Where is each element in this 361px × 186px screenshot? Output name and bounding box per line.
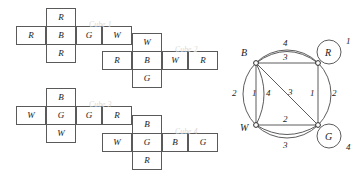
vertex-label-r: R (325, 47, 331, 58)
cube-1-bottom-face: R (46, 44, 76, 63)
cube-1-row-face-2: B (46, 26, 76, 45)
cube-4-label: Cube 4 (175, 127, 198, 136)
edge-label-w-g-outer: 3 (283, 140, 288, 150)
cube-1-top-face: R (46, 8, 76, 27)
cube-3-bottom-face: W (46, 124, 76, 143)
vertex-dot-b (254, 61, 259, 66)
multigraph-svg (228, 8, 361, 184)
vertex-label-g: G (325, 131, 332, 142)
edge-label-b-w-outer: 2 (232, 88, 237, 98)
edge-label-r-g-straight: 1 (310, 88, 315, 98)
cube-3-row-face-2: G (46, 106, 76, 125)
cube-net-4: B W G B G R Cube 4 (102, 115, 216, 171)
vertex-label-b: B (241, 47, 247, 58)
vertex-dot-w (254, 123, 259, 128)
edge-label-b-w-inner: 4 (266, 88, 271, 98)
edge-label-b-w-straight: 1 (252, 88, 257, 98)
cube-3-label: Cube 3 (89, 100, 112, 109)
cube-4-top-face: B (132, 115, 162, 134)
cube-3-row-face-1: W (16, 106, 46, 125)
cube-4-bottom-face: R (132, 151, 162, 170)
vertex-label-w: W (240, 122, 248, 133)
cube-2-row-face-2: B (132, 51, 162, 70)
edge-label-w-g-straight: 2 (283, 114, 288, 124)
edge-w-g-outer-arc (256, 125, 318, 135)
cube-3-top-face: B (46, 88, 76, 107)
cube-2-row-face-1: R (102, 51, 132, 70)
edge-label-b-g-diagonal: 3 (288, 87, 293, 97)
cube-1-label: Cube 1 (89, 20, 112, 29)
edge-label-r-self-loop: 1 (346, 36, 351, 46)
edge-label-b-r-outer: 4 (283, 38, 288, 48)
edge-label-g-self-loop: 4 (346, 142, 351, 152)
cube-2-bottom-face: G (132, 69, 162, 88)
cube-1-row-face-1: R (16, 26, 46, 45)
vertex-dot-g (316, 123, 321, 128)
vertex-dot-r (316, 61, 321, 66)
multigraph-panel: B R W G 4 3 2 1 4 3 1 2 2 3 1 4 (228, 8, 361, 184)
cube-4-row-face-1: W (102, 133, 132, 152)
cube-net-2: W R B W R G Cube 2 (102, 33, 216, 89)
cube-4-row-face-2: G (132, 133, 162, 152)
figure-root: R R B G W R Cube 1 W R B W R G Cube 2 B … (0, 0, 361, 186)
edge-b-w-inner-arc (256, 63, 264, 125)
cube-2-top-face: W (132, 33, 162, 52)
cube-2-label: Cube 2 (175, 45, 198, 54)
edge-label-r-g-outer: 2 (332, 88, 337, 98)
edge-label-b-r-inner: 3 (283, 52, 288, 62)
